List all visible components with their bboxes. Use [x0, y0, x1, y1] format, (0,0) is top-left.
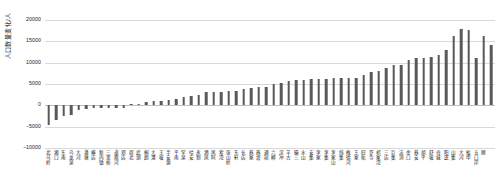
- bar-slot: [180, 20, 188, 148]
- bar[interactable]: [227, 91, 230, 105]
- bar[interactable]: [167, 100, 170, 106]
- y-tick-label: 5000: [0, 81, 41, 86]
- bar-slot: [308, 20, 316, 148]
- bar[interactable]: [77, 105, 80, 109]
- bar[interactable]: [325, 79, 328, 105]
- bar[interactable]: [122, 105, 125, 108]
- bar[interactable]: [392, 65, 395, 105]
- bar-slot: [128, 20, 136, 148]
- bar-slot: [375, 20, 383, 148]
- gridline: [45, 148, 495, 149]
- bar[interactable]: [460, 29, 463, 106]
- bar-slot: [293, 20, 301, 148]
- bar[interactable]: [467, 30, 470, 105]
- bar-slot: [435, 20, 443, 148]
- bar[interactable]: [482, 36, 485, 105]
- bar-slot: [383, 20, 391, 148]
- bar-slot: [165, 20, 173, 148]
- bar[interactable]: [235, 91, 238, 106]
- bar[interactable]: [302, 80, 305, 106]
- bar[interactable]: [92, 105, 95, 108]
- bar[interactable]: [422, 58, 425, 106]
- bar[interactable]: [265, 87, 268, 105]
- bar[interactable]: [437, 55, 440, 105]
- bar[interactable]: [272, 84, 275, 105]
- bar-slot: [443, 20, 451, 148]
- bar[interactable]: [407, 60, 410, 105]
- bar-slot: [188, 20, 196, 148]
- bar-slot: [428, 20, 436, 148]
- bar[interactable]: [377, 71, 380, 105]
- bar[interactable]: [205, 92, 208, 105]
- bar-slot: [330, 20, 338, 148]
- bar[interactable]: [145, 102, 148, 105]
- bar[interactable]: [55, 105, 58, 120]
- bar[interactable]: [310, 79, 313, 105]
- bar-slot: [83, 20, 91, 148]
- bar-slot: [158, 20, 166, 148]
- bar[interactable]: [317, 79, 320, 105]
- bar[interactable]: [47, 105, 50, 125]
- bar-slot: [173, 20, 181, 148]
- bar-slot: [368, 20, 376, 148]
- bar[interactable]: [400, 65, 403, 106]
- bar[interactable]: [362, 75, 365, 105]
- bar-slot: [263, 20, 271, 148]
- bar[interactable]: [70, 105, 73, 114]
- bar[interactable]: [212, 92, 215, 106]
- bar-slot: [233, 20, 241, 148]
- bar[interactable]: [280, 83, 283, 106]
- bar[interactable]: [475, 58, 478, 105]
- bar[interactable]: [130, 104, 133, 105]
- bar[interactable]: [452, 36, 455, 106]
- bar-slot: [45, 20, 53, 148]
- bar-slot: [398, 20, 406, 148]
- bar-slot: [315, 20, 323, 148]
- bar[interactable]: [415, 58, 418, 105]
- bar[interactable]: [250, 88, 253, 105]
- bar[interactable]: [197, 95, 200, 105]
- bar[interactable]: [385, 68, 388, 106]
- bar-slot: [143, 20, 151, 148]
- bar[interactable]: [355, 78, 358, 106]
- bar[interactable]: [85, 105, 88, 108]
- bar[interactable]: [347, 78, 350, 106]
- bar[interactable]: [175, 99, 178, 105]
- bar[interactable]: [287, 81, 290, 106]
- bar[interactable]: [152, 101, 155, 105]
- bar[interactable]: [107, 105, 110, 108]
- bar[interactable]: [332, 78, 335, 105]
- bar-slot: [135, 20, 143, 148]
- bar-slot: [90, 20, 98, 148]
- y-tick-label: 20000: [0, 17, 41, 22]
- bar[interactable]: [137, 104, 140, 106]
- bar-slot: [413, 20, 421, 148]
- bar[interactable]: [340, 78, 343, 105]
- bar-slot: [105, 20, 113, 148]
- bar[interactable]: [190, 96, 193, 105]
- bar-slot: [113, 20, 121, 148]
- bar[interactable]: [295, 80, 298, 105]
- bar-slot: [278, 20, 286, 148]
- bar[interactable]: [430, 57, 433, 105]
- bar[interactable]: [445, 50, 448, 105]
- bar[interactable]: [220, 92, 223, 106]
- bar-slot: [75, 20, 83, 148]
- bar[interactable]: [257, 87, 260, 105]
- bar-slot: [473, 20, 481, 148]
- bar[interactable]: [100, 105, 103, 108]
- y-tick-label: 15000: [0, 38, 41, 43]
- bar[interactable]: [370, 72, 373, 105]
- bar-slot: [240, 20, 248, 148]
- bar[interactable]: [490, 45, 493, 105]
- bar[interactable]: [182, 97, 185, 105]
- plot-area: [45, 20, 495, 148]
- bar-slot: [458, 20, 466, 148]
- bar[interactable]: [115, 105, 118, 108]
- bar[interactable]: [242, 89, 245, 106]
- bar-slot: [195, 20, 203, 148]
- bar-slot: [345, 20, 353, 148]
- bar[interactable]: [160, 101, 163, 105]
- bar[interactable]: [62, 105, 65, 115]
- y-tick-label: 10000: [0, 60, 41, 65]
